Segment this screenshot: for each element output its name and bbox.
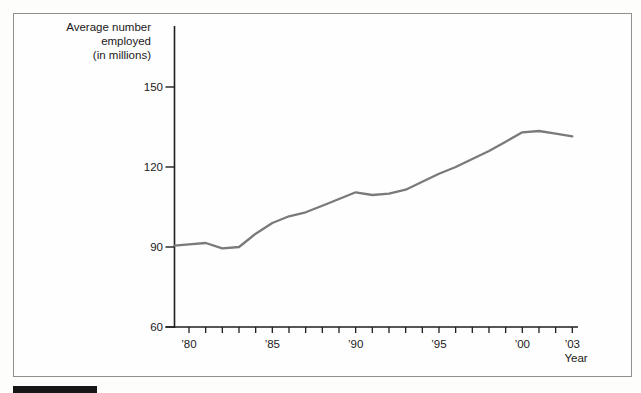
- x-axis-tick-labels: ’80’85’90’95’00’03: [181, 338, 580, 350]
- x-axis-ticks: [189, 327, 572, 333]
- y-tick-label-150: 150: [144, 81, 163, 93]
- employment-line-chart: 6090120150 ’80’85’90’95’00’03: [0, 0, 641, 393]
- y-axis-tick-labels: 6090120150: [144, 81, 163, 333]
- x-tick-label-1985: ’85: [265, 338, 280, 350]
- y-tick-label-90: 90: [150, 241, 163, 253]
- employment-data-line: [175, 131, 573, 248]
- bottom-divider-bar: [13, 386, 97, 393]
- x-tick-label-2000: ’00: [515, 338, 530, 350]
- x-tick-label-1990: ’90: [348, 338, 363, 350]
- y-tick-label-120: 120: [144, 161, 163, 173]
- x-tick-label-1995: ’95: [431, 338, 446, 350]
- y-tick-label-60: 60: [150, 321, 163, 333]
- x-axis-title: Year: [550, 352, 602, 364]
- chart-axes: [166, 26, 579, 328]
- employment-series-polyline: [175, 131, 573, 248]
- textbook-figure-page: Average number employed (in millions) 60…: [0, 0, 641, 393]
- x-tick-label-2003: ’03: [565, 338, 580, 350]
- y-axis-ticks: [166, 87, 176, 327]
- x-tick-label-1980: ’80: [181, 338, 196, 350]
